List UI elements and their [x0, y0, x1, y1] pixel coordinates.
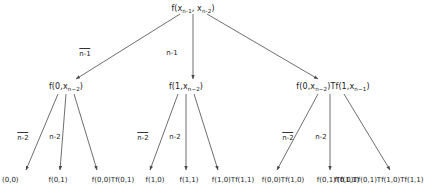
- leaf-node: f(0,0)Tf(0,1): [92, 176, 134, 184]
- edge-label-right-group-neg: n-2: [282, 132, 293, 142]
- edge-label-left-group-pos: n-2: [49, 133, 60, 141]
- leaf-node: (0,0): [2, 176, 19, 184]
- edge-label-middle-group-pos: n-2: [169, 133, 180, 141]
- edge-label-left-group-neg: n-2: [17, 132, 28, 142]
- tree-edge: [207, 14, 318, 79]
- edge-label-middle-group-neg: n-2: [137, 132, 148, 142]
- node-level1-right: f(0,xn−2)Tf(1,xn−1): [296, 82, 369, 91]
- leaf-node: f(1,0)Tf(1,1): [212, 176, 254, 184]
- edge-label-right-group-pos: n-2: [315, 133, 326, 141]
- leaf-node: f(1,0): [145, 176, 164, 184]
- leaf-node: f(0,1): [48, 176, 67, 184]
- edge-label-root-left: n-1: [79, 48, 90, 58]
- node-level1-left: f(0,xn−2): [49, 82, 83, 91]
- leaf-node: f(0,0)Tf(0,1)Tf(1,0)Tf(1,1): [334, 176, 423, 184]
- tree-edge: [76, 14, 180, 79]
- leaf-node: f(1,1): [179, 176, 198, 184]
- tree-edges-canvas: [0, 0, 443, 195]
- tree-edge: [74, 94, 97, 170]
- tree-edge: [344, 94, 390, 170]
- tree-edge: [150, 94, 178, 170]
- edge-group: [26, 14, 390, 170]
- tree-edge: [26, 94, 58, 170]
- tree-edge: [60, 94, 66, 170]
- node-root: f(xn-1, xn-2): [171, 4, 214, 13]
- node-level1-middle: f(1,xn−2): [169, 82, 203, 91]
- leaf-node: f(0,0)Tf(1,0): [262, 176, 304, 184]
- tree-edge: [194, 94, 218, 170]
- edge-label-root-center: n-1: [166, 49, 177, 57]
